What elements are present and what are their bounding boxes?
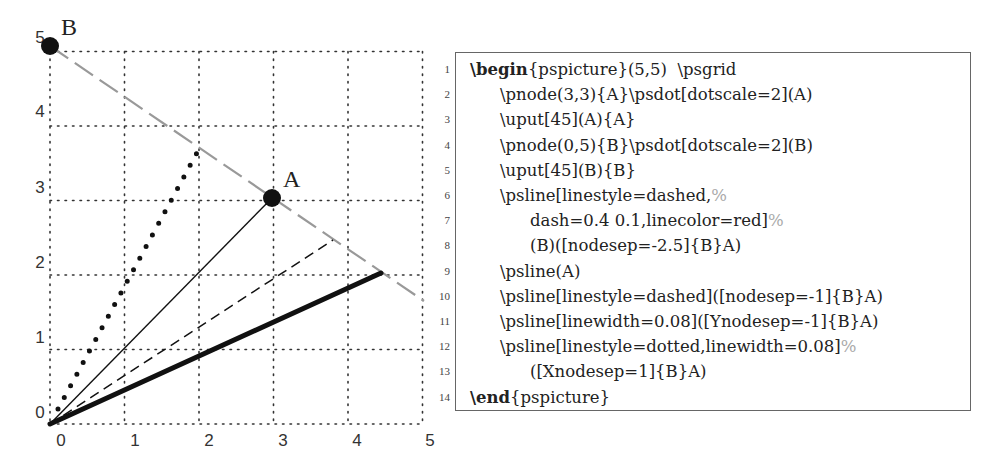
code-text: \psline(A) — [500, 259, 580, 284]
code-text: dash=0.4 0.1,linecolor=red]% — [530, 208, 784, 233]
code-listing: 1\begin{pspicture}(5,5) \psgrid2\pnode(3… — [455, 52, 971, 411]
x-tick-label: 5 — [425, 431, 434, 450]
code-body: (B)([nodesep=-2.5]{B}A) — [530, 236, 741, 255]
line-number: 10 — [436, 284, 450, 309]
code-line: 10\psline[linestyle=dashed]([nodesep=-1]… — [456, 284, 970, 309]
y-tick-label: 3 — [35, 178, 44, 197]
code-body: \psline[linestyle=dashed, — [500, 186, 711, 205]
code-keyword: \end — [470, 388, 510, 407]
code-body: \psline[linestyle=dotted,linewidth=0.08] — [500, 337, 841, 356]
code-text: \uput[45](B){B} — [500, 158, 636, 183]
y-axis-labels: 0 1 2 3 4 5 — [35, 28, 44, 422]
code-line: 13([Xnodesep=1]{B}A) — [456, 359, 970, 384]
code-body: dash=0.4 0.1,linecolor=red] — [530, 211, 768, 230]
code-body: \uput[45](A){A} — [500, 110, 636, 129]
code-body: \psline[linewidth=0.08]([Ynodesep=-1]{B}… — [500, 312, 878, 331]
code-text: \psline[linestyle=dashed,% — [500, 183, 727, 208]
code-line: 8(B)([nodesep=-2.5]{B}A) — [456, 233, 970, 258]
code-text: \pnode(3,3){A}\psdot[dotscale=2](A) — [500, 82, 812, 107]
code-body: \pnode(0,5){B}\psdot[dotscale=2](B) — [500, 136, 813, 155]
line-number: 14 — [436, 385, 450, 410]
x-axis-labels: 0 1 2 3 4 5 — [56, 431, 434, 450]
pspicture-figure: 0 1 2 3 4 5 0 1 2 3 4 5 A B — [0, 0, 440, 463]
line-number: 9 — [436, 259, 450, 284]
y-tick-label: 4 — [35, 102, 44, 121]
code-text: \psline[linewidth=0.08]([Ynodesep=-1]{B}… — [500, 309, 878, 334]
node-b-dot — [41, 37, 59, 55]
line-number: 12 — [436, 334, 450, 359]
code-line: 3\uput[45](A){A} — [456, 107, 970, 132]
extended-dashed-line — [50, 46, 424, 301]
code-body: {pspicture}(5,5) \psgrid — [528, 60, 737, 79]
code-text: \psline[linestyle=dashed]([nodesep=-1]{B… — [500, 284, 883, 309]
code-line: 9\psline(A) — [456, 259, 970, 284]
line-number: 5 — [436, 158, 450, 183]
line-number: 13 — [436, 359, 450, 384]
node-b-label: B — [61, 14, 77, 40]
node-a-label: A — [283, 166, 301, 192]
code-line: 2\pnode(3,3){A}\psdot[dotscale=2](A) — [456, 82, 970, 107]
code-line: 5\uput[45](B){B} — [456, 158, 970, 183]
line-number: 6 — [436, 183, 450, 208]
code-text: (B)([nodesep=-2.5]{B}A) — [530, 233, 741, 258]
code-body: \uput[45](B){B} — [500, 161, 636, 180]
y-tick-label: 0 — [35, 403, 44, 422]
x-tick-label: 4 — [352, 431, 361, 450]
line-number: 2 — [436, 82, 450, 107]
x-tick-label: 0 — [56, 431, 65, 450]
code-body: \psline[linestyle=dashed]([nodesep=-1]{B… — [500, 287, 883, 306]
line-number: 1 — [436, 57, 450, 82]
x-tick-label: 3 — [278, 431, 287, 450]
code-line: 7dash=0.4 0.1,linecolor=red]% — [456, 208, 970, 233]
dotted-thick-line — [58, 149, 199, 409]
code-text: \end{pspicture} — [470, 385, 610, 410]
x-tick-label: 2 — [204, 431, 213, 450]
line-number: 7 — [436, 208, 450, 233]
line-number: 3 — [436, 107, 450, 132]
node-a-dot — [263, 189, 281, 207]
line-number: 8 — [436, 233, 450, 258]
code-keyword: \begin — [470, 60, 528, 79]
code-body: \pnode(3,3){A}\psdot[dotscale=2](A) — [500, 85, 812, 104]
code-line: 1\begin{pspicture}(5,5) \psgrid — [456, 57, 970, 82]
dashed-line — [50, 240, 333, 424]
code-line: 4\pnode(0,5){B}\psdot[dotscale=2](B) — [456, 133, 970, 158]
code-line: 6\psline[linestyle=dashed,% — [456, 183, 970, 208]
line-number: 11 — [436, 309, 450, 334]
code-comment-marker: % — [711, 186, 727, 205]
code-text: \pnode(0,5){B}\psdot[dotscale=2](B) — [500, 133, 813, 158]
code-comment-marker: % — [768, 211, 784, 230]
solid-line-to-a — [50, 198, 272, 424]
y-tick-label: 1 — [35, 328, 44, 347]
code-line: 14\end{pspicture} — [456, 385, 970, 410]
line-number: 4 — [436, 133, 450, 158]
code-body: \psline(A) — [500, 262, 580, 281]
code-body: {pspicture} — [510, 388, 610, 407]
code-text: \uput[45](A){A} — [500, 107, 636, 132]
code-body: ([Xnodesep=1]{B}A) — [530, 362, 707, 381]
code-line: 12\psline[linestyle=dotted,linewidth=0.0… — [456, 334, 970, 359]
dotted-grid — [50, 52, 423, 425]
code-text: ([Xnodesep=1]{B}A) — [530, 359, 707, 384]
code-text: \begin{pspicture}(5,5) \psgrid — [470, 57, 736, 82]
code-line: 11\psline[linewidth=0.08]([Ynodesep=-1]{… — [456, 309, 970, 334]
thick-solid-line — [50, 273, 381, 424]
x-tick-label: 1 — [130, 431, 139, 450]
code-comment-marker: % — [841, 337, 857, 356]
code-text: \psline[linestyle=dotted,linewidth=0.08]… — [500, 334, 856, 359]
y-tick-label: 2 — [35, 253, 44, 272]
figure-canvas: 0 1 2 3 4 5 0 1 2 3 4 5 A B — [0, 0, 440, 463]
